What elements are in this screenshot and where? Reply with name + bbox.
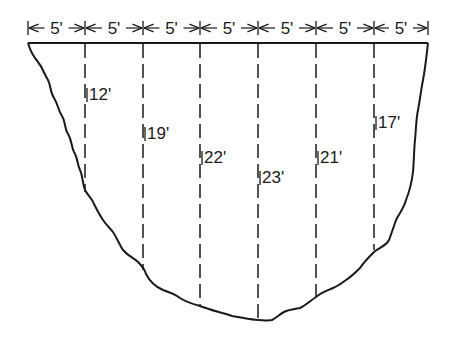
width-interval: 5' xyxy=(258,19,315,38)
width-interval: 5' xyxy=(316,19,373,38)
depth-label: 17' xyxy=(378,113,400,132)
depth-labels: 12'19'22'23'21'17' xyxy=(87,85,400,187)
width-label: 5' xyxy=(108,19,121,38)
bottom-profile xyxy=(28,43,428,320)
width-label: 5' xyxy=(165,19,178,38)
width-label: 5' xyxy=(339,19,352,38)
width-label: 5' xyxy=(50,19,63,38)
cross-section-diagram: 5'5'5'5'5'5'5' 12'19'22'23'21'17' xyxy=(0,0,452,338)
width-interval: 5' xyxy=(143,19,199,38)
width-interval: 5' xyxy=(28,19,84,38)
width-interval: 5' xyxy=(200,19,257,38)
sounding-lines xyxy=(85,44,374,320)
depth-label: 22' xyxy=(204,148,226,167)
width-interval: 5' xyxy=(85,19,142,38)
depth-label: 21' xyxy=(320,148,342,167)
width-label: 5' xyxy=(395,19,408,38)
width-interval: 5' xyxy=(374,19,428,38)
width-dimension-row: 5'5'5'5'5'5'5' xyxy=(28,19,428,38)
width-label: 5' xyxy=(223,19,236,38)
depth-label: 23' xyxy=(262,168,284,187)
depth-label: 19' xyxy=(147,124,169,143)
depth-label: 12' xyxy=(89,85,111,104)
width-label: 5' xyxy=(281,19,294,38)
